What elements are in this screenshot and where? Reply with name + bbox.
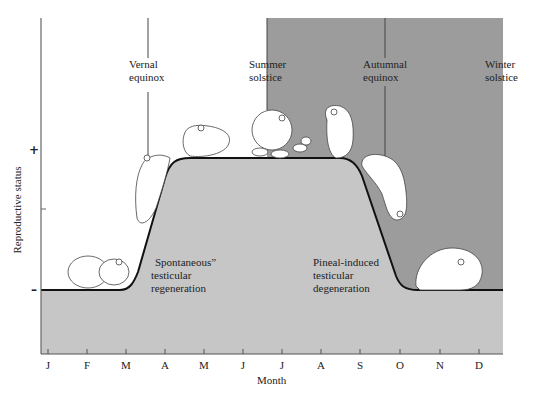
month-label: J	[241, 359, 246, 371]
annotation-regeneration-1: Spontaneous”	[155, 256, 216, 268]
hamster-sleeping-icon	[68, 256, 129, 288]
annotation-degeneration-2: testicular	[313, 269, 354, 281]
month-label: S	[357, 359, 363, 371]
annotation-regeneration-2: testicular	[151, 269, 192, 281]
summer-label-1: Summer	[249, 58, 287, 70]
month-label: A	[161, 359, 169, 371]
vernal-label-2: equinox	[129, 71, 165, 83]
chart: J F M A M J J A S O N D Month Reproducti…	[0, 0, 535, 393]
y-tick-plus: +	[29, 143, 39, 157]
month-label: M	[121, 359, 131, 371]
summer-label-2: solstice	[249, 71, 282, 83]
annotation-degeneration-1: Pineal-induced	[313, 256, 379, 268]
autumnal-label-1: Autumnal	[363, 58, 407, 70]
y-axis-label: Reproductive status	[11, 166, 23, 253]
annotation-degeneration-3: degeneration	[313, 282, 370, 294]
winter-label-2: solstice	[485, 71, 518, 83]
autumnal-label-2: equinox	[363, 71, 399, 83]
winter-label-1: Winter	[485, 58, 515, 70]
month-label: F	[84, 359, 90, 371]
month-label: A	[317, 359, 325, 371]
x-axis-label: Month	[257, 374, 287, 386]
month-label: J	[280, 359, 285, 371]
month-label: O	[396, 359, 404, 371]
hamster-standing-icon	[325, 106, 353, 158]
annotation-regeneration-3: regeneration	[151, 282, 206, 294]
month-label: N	[436, 359, 444, 371]
month-label: D	[475, 359, 483, 371]
x-tick-labels: J F M A M J J A S O N D	[46, 359, 483, 371]
hamster-walking-icon	[183, 125, 229, 156]
month-label: M	[199, 359, 209, 371]
vernal-label-1: Vernal	[129, 58, 158, 70]
month-label: J	[46, 359, 51, 371]
y-tick-minus: –	[31, 283, 37, 297]
